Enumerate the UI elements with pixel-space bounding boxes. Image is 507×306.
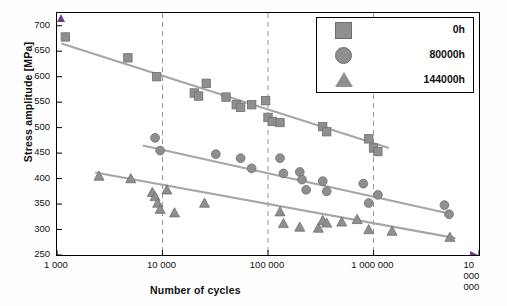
y-tick-label: 500 [22, 121, 50, 132]
data-point [247, 101, 255, 109]
x-tick-label: 1 000 [44, 259, 68, 270]
trend-line [95, 172, 455, 238]
y-tick-label: 650 [22, 44, 50, 55]
data-point [152, 72, 160, 80]
legend-label: 80000h [429, 48, 465, 60]
data-point [236, 103, 244, 111]
data-point [279, 169, 288, 178]
y-tick-label: 700 [22, 19, 50, 30]
data-point [364, 135, 372, 143]
data-point [445, 210, 454, 219]
y-tick-label: 300 [22, 223, 50, 234]
y-tick-label: 250 [22, 248, 50, 259]
data-point [276, 154, 285, 163]
data-point [222, 93, 230, 101]
x-tick-label: 10 000 [147, 259, 176, 270]
data-point [359, 179, 368, 188]
data-point [268, 117, 276, 125]
data-point [199, 198, 209, 207]
data-point [322, 187, 331, 196]
data-point [278, 218, 288, 227]
x-tick-label: 1 000 000 [351, 259, 393, 270]
data-point [61, 33, 69, 41]
y-tick-label: 400 [22, 172, 50, 183]
x-tick-label: 10 000 000 [464, 259, 493, 292]
data-point [364, 199, 373, 208]
data-point [364, 225, 374, 234]
legend-label: 0h [453, 23, 465, 35]
legend-label: 144000h [424, 73, 465, 85]
square-marker [335, 22, 352, 39]
data-point [302, 185, 311, 194]
data-point [374, 147, 382, 155]
y-tick-label: 450 [22, 146, 50, 157]
legend-item-144000h: 144000h [317, 68, 473, 93]
data-point [247, 164, 256, 173]
data-point [275, 207, 285, 216]
data-point [202, 79, 210, 87]
y-tick-label: 350 [22, 197, 50, 208]
data-point [322, 128, 330, 136]
data-point [211, 150, 220, 159]
data-point [236, 154, 245, 163]
chart-legend: 0h 80000h 144000h [316, 17, 474, 93]
data-point [373, 190, 382, 199]
x-tick-label: 100 000 [250, 259, 284, 270]
data-point [318, 177, 327, 186]
data-point [261, 96, 269, 104]
data-point [124, 54, 132, 62]
y-tick-label: 550 [22, 95, 50, 106]
legend-item-80000h: 80000h [317, 43, 473, 68]
legend-item-0h: 0h [317, 18, 473, 43]
data-point [295, 222, 305, 231]
y-tick-label: 600 [22, 70, 50, 81]
data-point [276, 118, 284, 126]
data-point [151, 133, 160, 142]
triangle-marker [335, 72, 353, 87]
data-point [298, 175, 307, 184]
data-point [170, 208, 180, 217]
circle-marker [335, 47, 352, 64]
x-axis-label: Number of cycles [150, 284, 241, 296]
chart-figure: Stress amplitude [MPa] Number of cycles … [0, 0, 507, 306]
data-point [156, 146, 165, 155]
data-point [194, 92, 202, 100]
data-point [440, 201, 449, 210]
